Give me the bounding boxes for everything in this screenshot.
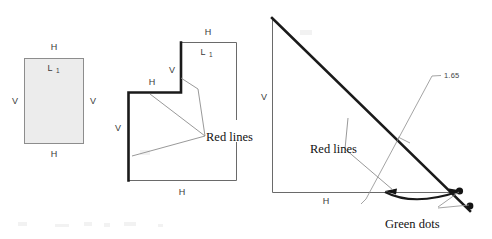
triangle-annotation-green-dots: Green dots (385, 217, 440, 231)
rect-label-left-v: V (12, 96, 18, 106)
rect-label-top-h: H (51, 42, 58, 52)
rect-label-bottom-h: H (51, 149, 58, 159)
polygon-red-line-diagonal (150, 94, 205, 136)
polygon-annotation-red-lines: Red lines (206, 130, 253, 144)
polygon-red-line-lower (132, 136, 205, 156)
panel-right-triangle: V H 1.65 Red lines Green dots (261, 18, 473, 231)
figure-svg: H H V V L 1 H H V V H L 1 (0, 0, 492, 239)
polygon-label-notch-v: V (169, 65, 175, 75)
triangle-annotation-red-lines: Red lines (310, 142, 357, 156)
panel-rectangle: H H V V L 1 (12, 42, 96, 159)
polygon-label-l1-subscript: 1 (209, 51, 213, 58)
panel-notched-polygon: H H V V H L 1 Red lines (115, 27, 253, 197)
triangle-label-v: V (261, 92, 267, 102)
dimension-value-label: 1.65 (444, 71, 459, 80)
rect-label-right-v: V (90, 96, 96, 106)
polygon-label-l1: L (200, 47, 205, 57)
triangle-hypotenuse (272, 18, 470, 211)
dimension-leader-shoulder (432, 76, 441, 77)
rect-label-l1-subscript: 1 (56, 67, 60, 74)
triangle-label-h: H (323, 196, 330, 206)
diagram-canvas: H H V V L 1 H H V V H L 1 (0, 0, 492, 239)
polygon-label-left-v: V (115, 123, 121, 133)
dimension-arrow-tail (361, 199, 366, 204)
polygon-outline-lower-right (129, 142, 237, 181)
polygon-label-bottom-h: H (179, 187, 186, 197)
rect-label-l1: L (47, 63, 52, 73)
polygon-label-top-h: H (205, 27, 212, 37)
green-dot-offset (467, 203, 474, 210)
polygon-label-notch-h: H (149, 77, 156, 87)
rectangle-body (25, 59, 84, 144)
